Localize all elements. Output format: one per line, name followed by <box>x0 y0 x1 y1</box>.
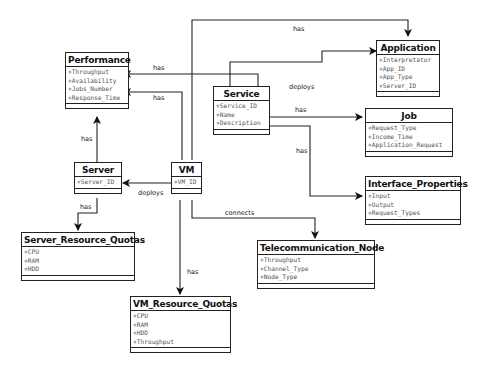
class-operations <box>366 220 460 224</box>
attribute: +Jobs_Number <box>68 85 126 94</box>
attribute: +Server_ID <box>379 82 437 91</box>
attribute: +VM_ID <box>174 178 199 187</box>
class-attributes: +Service_ID +Name +Description <box>214 101 269 130</box>
class-attributes: +CPU +RAM +HDD <box>22 247 134 276</box>
class-title: Interface_Properties <box>366 177 460 191</box>
class-operations <box>22 276 134 280</box>
attribute: +Request_Type <box>368 124 450 133</box>
class-title: Service <box>214 87 269 101</box>
attribute: +CPU <box>133 312 228 321</box>
class-vm[interactable]: VM +VM_ID <box>171 162 202 194</box>
attribute: +Application_Request <box>368 141 450 150</box>
edge-label-vm-telecom: connects <box>225 209 254 217</box>
edge-vm-telecom <box>192 200 315 238</box>
class-interface-properties[interactable]: Interface_Properties +Input +Output +Req… <box>365 176 461 225</box>
uml-class-diagram: has has has deploys has has has deploys … <box>0 0 480 374</box>
edge-label-service-application: deploys <box>289 83 314 91</box>
class-title: VM <box>172 163 201 177</box>
attribute: +Interpretator <box>379 56 437 65</box>
edge-label-service-interface: has <box>296 147 308 155</box>
attribute: +Name <box>216 111 267 120</box>
class-application[interactable]: Application +Interpretator +App_ID +App_… <box>376 40 440 97</box>
attribute: +Throughput <box>133 338 228 347</box>
class-job[interactable]: Job +Request_Type +Income_Time +Applicat… <box>365 108 453 157</box>
edge-label-vm-application: has <box>293 25 305 33</box>
attribute: +CPU <box>24 248 132 257</box>
edge-label-server-srq: has <box>80 203 92 211</box>
class-operations <box>131 348 230 352</box>
attribute: +Server_ID <box>77 178 119 187</box>
class-operations <box>66 104 128 108</box>
class-title: Job <box>366 109 452 123</box>
edge-label-vm-vmrq: has <box>187 268 199 276</box>
class-attributes: +Input +Output +Request_Types <box>366 191 460 220</box>
class-operations <box>258 284 374 288</box>
edge-label-service-job: has <box>295 106 307 114</box>
attribute: +RAM <box>24 257 132 266</box>
attribute: +Description <box>216 119 267 128</box>
class-attributes: +VM_ID <box>172 177 201 189</box>
class-operations <box>75 189 121 193</box>
edge-label-vm-performance: has <box>153 94 165 102</box>
class-title: Server_Resource_Quotas <box>22 233 134 247</box>
class-operations <box>377 92 439 96</box>
attribute: +Service_ID <box>216 102 267 111</box>
edge-service-performance <box>124 74 258 86</box>
class-service[interactable]: Service +Service_ID +Name +Description <box>213 86 270 135</box>
edge-vm-performance <box>124 92 182 160</box>
attribute: +Throughput <box>260 256 372 265</box>
attribute: +Response_Time <box>68 94 126 103</box>
attribute: +Request_Types <box>368 209 458 218</box>
edge-service-interface <box>270 126 362 196</box>
attribute: +HDD <box>24 265 132 274</box>
attribute: +Income_Time <box>368 133 450 142</box>
class-title: VM_Resource_Quotas <box>131 297 230 311</box>
class-attributes: +Server_ID <box>75 177 121 189</box>
attribute: +HDD <box>133 329 228 338</box>
class-attributes: +Interpretator +App_ID +App_Type +Server… <box>377 55 439 92</box>
class-operations <box>172 189 201 193</box>
attribute: +RAM <box>133 321 228 330</box>
class-title: Performance <box>66 53 128 67</box>
class-operations <box>214 130 269 134</box>
class-title: Telecommunication_Node <box>258 241 374 255</box>
attribute: +App_Type <box>379 73 437 82</box>
class-server-resource-quotas[interactable]: Server_Resource_Quotas +CPU +RAM +HDD <box>21 232 135 281</box>
edge-label-service-performance: has <box>153 64 165 72</box>
class-attributes: +Throughput +Channel_Type +Node_Type <box>258 255 374 284</box>
edge-label-server-performance: has <box>81 135 93 143</box>
attribute: +Availability <box>68 77 126 86</box>
attribute: +Node_Type <box>260 273 372 282</box>
class-attributes: +CPU +RAM +HDD +Throughput <box>131 311 230 348</box>
edge-service-application <box>230 51 376 86</box>
attribute: +Input <box>368 192 458 201</box>
class-attributes: +Throughput +Availability +Jobs_Number +… <box>66 67 128 104</box>
attribute: +Channel_Type <box>260 265 372 274</box>
class-title: Server <box>75 163 121 177</box>
edge-label-vm-server: deploys <box>138 189 163 197</box>
class-vm-resource-quotas[interactable]: VM_Resource_Quotas +CPU +RAM +HDD +Throu… <box>130 296 231 353</box>
class-attributes: +Request_Type +Income_Time +Application_… <box>366 123 452 152</box>
attribute: +Output <box>368 201 458 210</box>
class-title: Application <box>377 41 439 55</box>
class-server[interactable]: Server +Server_ID <box>74 162 122 194</box>
attribute: +App_ID <box>379 65 437 74</box>
class-operations <box>366 152 452 156</box>
class-telecommunication-node[interactable]: Telecommunication_Node +Throughput +Chan… <box>257 240 375 289</box>
class-performance[interactable]: Performance +Throughput +Availability +J… <box>65 52 129 109</box>
attribute: +Throughput <box>68 68 126 77</box>
